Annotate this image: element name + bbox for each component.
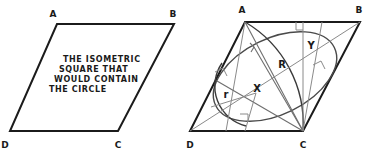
right-corner-label-d: D — [186, 140, 193, 150]
measure-label-y: Y — [306, 40, 315, 51]
right-angle-mark-top — [296, 22, 303, 30]
right-diagram: A B C D R r X Y — [184, 0, 368, 154]
figure-canvas: A B C D THE ISOMETRIC SQUARE THAT WOULD … — [0, 0, 368, 154]
right-corner-label-c: C — [300, 140, 307, 150]
right-corner-label-a: A — [239, 5, 246, 15]
measure-label-r-lower: r — [224, 89, 229, 100]
left-corner-label-c: C — [115, 140, 122, 150]
left-corner-label-a: A — [50, 9, 57, 19]
caption-line-4: THE CIRCLE — [49, 85, 107, 94]
caption-line-1: THE ISOMETRIC — [63, 55, 141, 64]
right-corner-label-b: B — [356, 5, 363, 15]
measure-label-r-upper: R — [278, 59, 286, 70]
construction-line-a-to-bottom — [226, 22, 245, 131]
left-corner-label-b: B — [170, 9, 177, 19]
caption-line-3: WOULD CONTAIN — [54, 75, 139, 84]
caption-line-2: SQUARE THAT — [59, 65, 128, 74]
measure-label-x: X — [253, 83, 261, 94]
left-diagram: A B C D THE ISOMETRIC SQUARE THAT WOULD … — [0, 0, 184, 154]
left-corner-label-d: D — [1, 140, 8, 150]
